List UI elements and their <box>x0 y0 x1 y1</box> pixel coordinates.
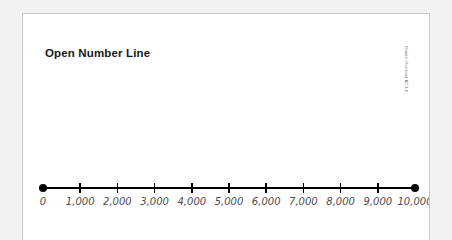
tick-mark <box>154 183 156 193</box>
tick-mark <box>340 183 342 193</box>
tick-label: 7,000 <box>289 196 318 207</box>
tick-label: 3,000 <box>140 196 169 207</box>
tick-label: 6,000 <box>252 196 281 207</box>
tick-mark <box>265 183 267 193</box>
tick-label: 8,000 <box>326 196 355 207</box>
tick-mark <box>191 183 193 193</box>
tick-label: 5,000 <box>215 196 244 207</box>
number-line-endpoint-end <box>411 184 419 192</box>
tick-mark <box>79 183 81 193</box>
tick-mark <box>377 183 379 193</box>
tick-mark <box>303 183 305 193</box>
number-line-endpoint-start <box>39 184 47 192</box>
tick-label: 9,000 <box>363 196 392 207</box>
number-line-figure: 01,0002,0003,0004,0005,0006,0007,0008,00… <box>23 14 430 236</box>
tick-mark <box>228 183 230 193</box>
tick-label: 0 <box>40 196 46 207</box>
worksheet-page: Open Number Line Number Overhead BC 3.8 … <box>22 13 430 236</box>
tick-label: 1,000 <box>66 196 95 207</box>
tick-mark <box>117 183 119 193</box>
tick-label: 2,000 <box>103 196 132 207</box>
tick-label: 4,000 <box>177 196 206 207</box>
tick-label: 10,000 <box>398 196 431 207</box>
